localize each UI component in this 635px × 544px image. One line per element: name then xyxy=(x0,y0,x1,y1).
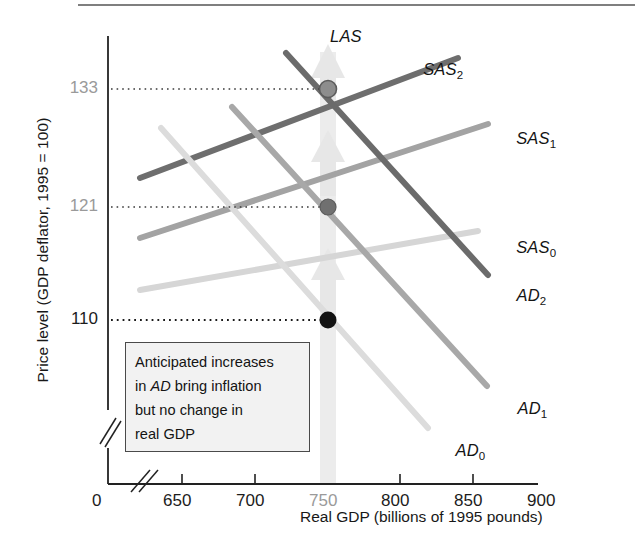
x-tick-label-700: 700 xyxy=(236,491,264,511)
x-axis-break-icon xyxy=(131,470,158,492)
equilibrium-dot-133 xyxy=(320,81,337,98)
curve-label-sas0-text: SAS xyxy=(516,238,550,256)
curve-label-sas2: SAS2 xyxy=(404,41,463,100)
curve-sas0 xyxy=(140,231,478,290)
y-tick-label-121: 121 xyxy=(52,196,98,216)
x-tick-label-850: 850 xyxy=(454,491,482,511)
annotation-line-4: real GDP xyxy=(135,422,300,446)
curve-label-ad0-sub: 0 xyxy=(479,450,486,462)
annotation-line-3: but no change in xyxy=(135,398,300,422)
y-axis-break-icon xyxy=(100,418,121,447)
curve-label-ad1-text: AD xyxy=(518,399,541,417)
equilibrium-dot-121 xyxy=(320,199,336,215)
curve-label-sas1-sub: 1 xyxy=(550,138,557,150)
x-tick-label-750: 750 xyxy=(309,491,337,511)
annotation-emphasis-ad: AD xyxy=(150,378,170,394)
curve-label-sas1: SAS1 xyxy=(497,110,556,169)
x-tick-label-800: 800 xyxy=(381,491,409,511)
curve-label-sas0-sub: 0 xyxy=(550,247,557,259)
curve-label-ad1-sub: 1 xyxy=(541,408,548,420)
annotation-line-2-a: in xyxy=(135,378,150,394)
curve-label-las: LAS xyxy=(330,27,362,46)
annotation-line-1: Anticipated increases xyxy=(135,350,300,374)
x-tick-label-650: 650 xyxy=(163,491,191,511)
ad-as-inflation-chart: Price level (GDP deflator, 1995 = 100) R… xyxy=(0,0,635,544)
origin-label: 0 xyxy=(92,491,101,511)
curve-label-ad2-text: AD xyxy=(517,286,540,304)
curve-label-ad2: AD2 xyxy=(498,267,546,326)
annotation-textbox: Anticipated increases in AD bring inflat… xyxy=(125,342,310,452)
x-tick-label-900: 900 xyxy=(527,491,555,511)
y-tick-label-110: 110 xyxy=(52,309,98,329)
y-axis-title: Price level (GDP deflator, 1995 = 100) xyxy=(34,85,52,415)
curve-label-ad2-sub: 2 xyxy=(540,295,547,307)
equilibrium-dot-110 xyxy=(320,312,337,329)
curve-label-ad0-text: AD xyxy=(456,441,479,459)
annotation-line-2: in AD bring inflation xyxy=(135,374,300,398)
curve-label-ad0: AD0 xyxy=(437,422,485,481)
curve-label-sas2-sub: 2 xyxy=(457,69,464,81)
curve-label-sas2-text: SAS xyxy=(423,60,457,78)
curve-label-ad1: AD1 xyxy=(499,380,547,439)
annotation-line-2-b: bring inflation xyxy=(171,378,262,394)
curve-label-sas1-text: SAS xyxy=(516,129,550,147)
y-tick-label-133: 133 xyxy=(52,78,98,98)
